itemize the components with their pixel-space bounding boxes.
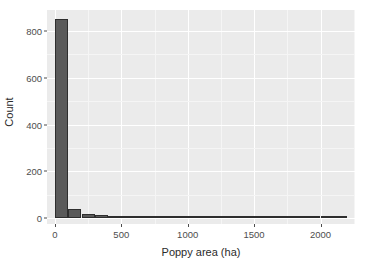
grid-major-x <box>188 10 189 224</box>
histogram-bar <box>294 216 307 218</box>
y-tick-label: 600 <box>26 72 42 83</box>
grid-minor-y <box>47 101 355 102</box>
x-axis-title-text: Poppy area (ha) <box>162 246 241 258</box>
histogram-bar <box>321 216 334 218</box>
plot-panel <box>47 10 355 224</box>
x-tick-mark <box>121 224 122 227</box>
grid-minor-x <box>354 10 355 224</box>
histogram-chart: Count 0200400600800 0500100015002000 Pop… <box>0 0 372 272</box>
histogram-bar <box>188 216 201 218</box>
y-tick-label: 0 <box>37 213 42 224</box>
histogram-bar <box>214 216 227 218</box>
histogram-bar <box>68 209 81 218</box>
histogram-bar <box>108 216 121 218</box>
grid-minor-x <box>287 10 288 224</box>
histogram-bar <box>228 216 241 218</box>
x-tick-label: 500 <box>113 229 129 240</box>
y-axis-title-text: Count <box>3 97 15 126</box>
histogram-bar <box>241 216 254 218</box>
grid-minor-y <box>47 195 355 196</box>
histogram-bar <box>281 216 294 218</box>
histogram-bar <box>148 216 161 218</box>
histogram-bar <box>121 216 134 218</box>
histogram-bar <box>135 216 148 218</box>
x-axis-title: Poppy area (ha) <box>47 246 355 258</box>
grid-major-y <box>47 218 355 219</box>
histogram-bar <box>55 19 68 218</box>
histogram-bar <box>254 216 267 218</box>
histogram-bar <box>307 216 320 218</box>
x-tick-label: 2000 <box>310 229 331 240</box>
grid-major-y <box>47 31 355 32</box>
x-tick-mark <box>254 224 255 227</box>
x-axis-ticks: 0500100015002000 <box>47 224 355 246</box>
x-tick-label: 1000 <box>177 229 198 240</box>
x-tick-mark <box>321 224 322 227</box>
grid-minor-x <box>88 10 89 224</box>
grid-minor-y <box>47 148 355 149</box>
grid-minor-x <box>221 10 222 224</box>
x-tick-label: 0 <box>52 229 57 240</box>
histogram-bar <box>334 216 347 218</box>
grid-minor-x <box>155 10 156 224</box>
y-tick-label: 800 <box>26 26 42 37</box>
grid-major-y <box>47 171 355 172</box>
grid-major-x <box>321 10 322 224</box>
histogram-bar <box>95 215 108 219</box>
grid-major-x <box>254 10 255 224</box>
y-tick-label: 400 <box>26 119 42 130</box>
histogram-bar <box>174 216 187 218</box>
histogram-bar <box>201 216 214 218</box>
y-axis-title: Count <box>0 0 18 224</box>
x-tick-mark <box>55 224 56 227</box>
grid-major-y <box>47 78 355 79</box>
grid-major-y <box>47 125 355 126</box>
x-tick-label: 1500 <box>244 229 265 240</box>
grid-minor-y <box>47 54 355 55</box>
histogram-bar <box>267 216 280 218</box>
histogram-bar <box>82 214 95 218</box>
grid-major-x <box>121 10 122 224</box>
histogram-bar <box>161 216 174 218</box>
x-tick-mark <box>188 224 189 227</box>
y-axis-ticks: 0200400600800 <box>18 0 47 232</box>
y-tick-label: 200 <box>26 166 42 177</box>
